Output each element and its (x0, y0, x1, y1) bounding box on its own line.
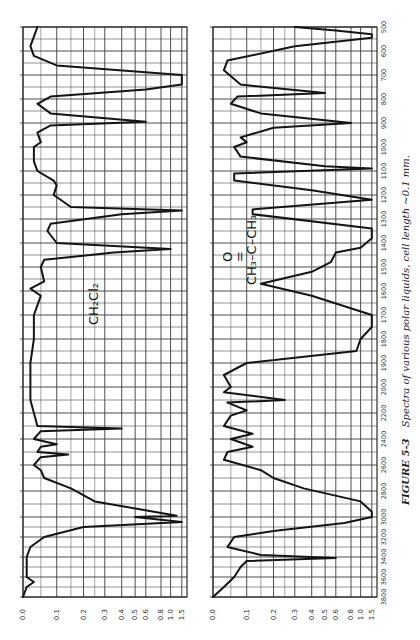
figure-canvas: 0.00.10.20.30.40.50.60.81.01.5 0.00.10.2… (0, 0, 420, 640)
wavenumber-tick-label: 2800 (380, 483, 388, 500)
absorbance-tick-label: 0.8 (157, 609, 165, 620)
acetone-molecule-label: CH₃–C–CH₃ O = (220, 215, 259, 285)
wavenumber-tick-label: 1700 (380, 307, 388, 324)
wavenumber-tick-label: 2200 (380, 405, 388, 422)
wavenumber-tick-label: 1600 (380, 283, 388, 300)
wavenumber-tick-label: 1500 (380, 259, 388, 276)
absorbance-tick-label: 0.2 (80, 609, 88, 620)
absorbance-tick-label: 1.5 (178, 609, 186, 620)
absorbance-tick-label: 0.8 (347, 609, 355, 620)
wavenumber-tick-label: 800 (380, 93, 388, 105)
absorbance-tick-label: 0.6 (142, 608, 150, 620)
wavenumber-tick-label: 700 (380, 69, 388, 81)
wavenumber-tick-label: 3000 (380, 509, 388, 526)
wavenumber-tick-label: 600 (380, 45, 388, 57)
ch2cl2-spectrum-panel: 0.00.10.20.30.40.50.60.81.01.5 (19, 27, 187, 620)
acetone-spectrum-panel: 0.00.10.20.30.40.50.60.81.01.55006007008… (209, 21, 388, 620)
spectrum-trace (23, 27, 182, 597)
absorbance-tick-label: 0.4 (118, 608, 126, 620)
figure-caption-text: Spectra of various polar liquids, cell l… (400, 155, 411, 427)
absorbance-tick-label: 0.5 (131, 609, 139, 620)
wavenumber-tick-label: 1100 (380, 163, 388, 180)
wavenumber-tick-label: 3400 (380, 549, 388, 566)
absorbance-tick-label: 1.0 (357, 609, 365, 620)
wavenumber-tick-label: 3800 (380, 589, 388, 606)
wavenumber-tick-label: 3600 (380, 569, 388, 586)
figure-caption: FIGURE 5-3 Spectra of various polar liqu… (400, 155, 411, 506)
wavenumber-tick-label: 1400 (380, 235, 388, 252)
acetone-formula: CH₃–C–CH₃ (244, 215, 259, 285)
absorbance-tick-label: 0.3 (291, 609, 299, 620)
wavenumber-tick-label: 2000 (380, 379, 388, 396)
absorbance-tick-label: 0.4 (308, 608, 316, 620)
absorbance-tick-label: 0.1 (53, 609, 61, 620)
absorbance-tick-label: 1.5 (368, 609, 376, 620)
ch2cl2-molecule-label: CH₂Cl₂ (86, 283, 101, 325)
absorbance-tick-label: 0.3 (101, 609, 109, 620)
figure-number: FIGURE 5-3 (400, 438, 411, 506)
wavenumber-tick-label: 1300 (380, 211, 388, 228)
spectrum-trace (213, 27, 372, 597)
wavenumber-tick-label: 900 (380, 117, 388, 129)
absorbance-tick-label: 0.6 (332, 608, 340, 620)
absorbance-tick-label: 0.1 (243, 609, 251, 620)
absorbance-tick-label: 0.0 (209, 609, 217, 620)
absorbance-tick-label: 1.0 (167, 609, 175, 620)
absorbance-tick-label: 0.0 (19, 609, 27, 620)
absorbance-tick-label: 0.2 (270, 609, 278, 620)
acetone-double-bond: = (232, 251, 247, 262)
wavenumber-tick-label: 500 (380, 21, 388, 33)
wavenumber-tick-label: 2400 (380, 431, 388, 448)
wavenumber-tick-label: 2600 (380, 457, 388, 474)
wavenumber-tick-label: 1800 (380, 331, 388, 348)
wavenumber-tick-label: 1000 (380, 139, 388, 156)
absorbance-tick-label: 0.5 (321, 609, 329, 620)
wavenumber-tick-label: 3200 (380, 529, 388, 546)
wavenumber-tick-label: 1200 (380, 187, 388, 204)
wavenumber-tick-label: 1900 (380, 355, 388, 372)
